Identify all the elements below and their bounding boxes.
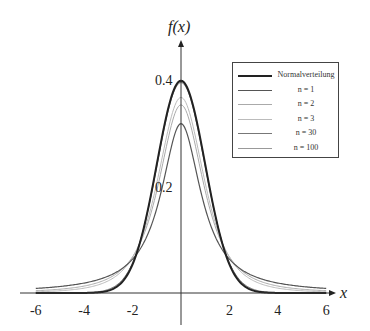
x-tick-label: 4	[274, 303, 281, 318]
x-tick-label: -6	[30, 303, 42, 318]
legend-label: n = 2	[277, 98, 335, 110]
legend-swatch	[238, 104, 272, 105]
legend-label: n = 3	[277, 113, 335, 125]
y-tick-label: 0.4	[155, 73, 173, 88]
legend-item: n = 100	[233, 142, 338, 154]
legend-swatch	[238, 75, 272, 77]
legend: Normalverteilungn = 1n = 2n = 3n = 30n =…	[232, 62, 339, 158]
legend-label: Normalverteilung	[277, 69, 335, 81]
x-axis-arrow-icon	[329, 290, 336, 296]
legend-label: n = 30	[277, 127, 335, 139]
legend-swatch	[238, 119, 272, 120]
legend-swatch	[238, 148, 272, 149]
chart-plot-area: x f(x) -6-4-22460.20.4	[0, 0, 370, 331]
x-axis-label: x	[339, 284, 347, 301]
x-tick-label: 6	[323, 303, 330, 318]
x-tick-label: 2	[226, 303, 233, 318]
y-tick-label: 0.2	[155, 180, 173, 195]
legend-label: n = 100	[277, 142, 335, 154]
x-tick-label: -4	[78, 303, 90, 318]
legend-item: n = 30	[233, 127, 338, 139]
y-axis-arrow-icon	[178, 40, 184, 47]
legend-item: n = 3	[233, 113, 338, 125]
legend-swatch	[238, 90, 272, 91]
legend-item: n = 2	[233, 98, 338, 110]
legend-label: n = 1	[277, 84, 335, 96]
legend-item: n = 1	[233, 84, 338, 96]
legend-swatch	[238, 133, 272, 134]
x-tick-label: -2	[127, 303, 139, 318]
legend-item: Normalverteilung	[233, 69, 338, 81]
y-axis-label: f(x)	[168, 18, 190, 36]
